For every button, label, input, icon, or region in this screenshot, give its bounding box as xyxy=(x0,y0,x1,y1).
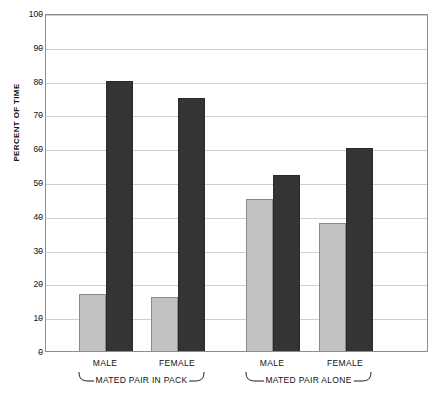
bar-mated-pair-in-pack-female-light xyxy=(151,297,178,351)
group-label-1: MATED PAIR ALONE xyxy=(263,375,353,385)
bar-mated-pair-in-pack-male-dark xyxy=(106,81,133,351)
bars-layer xyxy=(46,15,427,351)
bar-mated-pair-alone-female-dark xyxy=(346,148,373,351)
bar-mated-pair-alone-female-light xyxy=(319,223,346,351)
y-axis-ticks: 0102030405060708090100 xyxy=(0,14,38,352)
y-tick-mark-80 xyxy=(38,82,43,83)
y-tick-mark-70 xyxy=(38,115,43,116)
category-label-0: MALE xyxy=(93,358,117,368)
y-tick-mark-40 xyxy=(38,217,43,218)
bar-chart: PERCENT OF TIME 0102030405060708090100 M… xyxy=(0,0,438,398)
y-tick-mark-0 xyxy=(38,352,43,353)
y-tick-mark-50 xyxy=(38,183,43,184)
category-label-2: MALE xyxy=(260,358,284,368)
group-label-0: MATED PAIR IN PACK xyxy=(94,375,190,385)
bar-mated-pair-alone-male-dark xyxy=(273,175,300,351)
y-tick-mark-100 xyxy=(38,14,43,15)
y-tick-mark-90 xyxy=(38,48,43,49)
y-tick-mark-20 xyxy=(38,284,43,285)
y-tick-mark-60 xyxy=(38,149,43,150)
category-label-3: FEMALE xyxy=(327,358,363,368)
plot-area xyxy=(45,14,428,352)
y-tick-mark-10 xyxy=(38,318,43,319)
y-tick-mark-30 xyxy=(38,251,43,252)
bar-mated-pair-in-pack-female-dark xyxy=(178,98,205,352)
bar-mated-pair-in-pack-male-light xyxy=(79,294,106,351)
bar-mated-pair-alone-male-light xyxy=(246,199,273,351)
category-label-1: FEMALE xyxy=(159,358,195,368)
